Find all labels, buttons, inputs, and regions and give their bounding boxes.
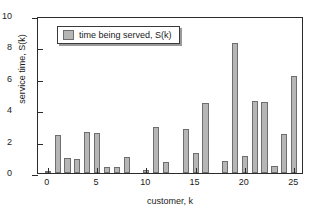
- bar: [222, 161, 228, 173]
- x-axis-label: customer, k: [37, 196, 303, 206]
- bar: [252, 101, 258, 173]
- x-tick-label: 15: [180, 178, 210, 187]
- bar: [55, 135, 61, 173]
- x-tick-label: 5: [81, 178, 111, 187]
- x-tick-label: 10: [130, 178, 160, 187]
- x-tick: [48, 168, 49, 173]
- x-tick: [196, 168, 197, 173]
- legend-swatch-icon: [63, 30, 74, 40]
- bar: [291, 76, 297, 173]
- bar: [153, 127, 159, 173]
- x-tick-label: 25: [278, 178, 308, 187]
- x-tick-label: 0: [32, 178, 62, 187]
- bar: [232, 43, 238, 173]
- y-tick: [32, 18, 38, 19]
- x-tick: [97, 168, 98, 173]
- x-tick: [294, 168, 295, 173]
- y-tick: [32, 175, 38, 176]
- y-tick-label: 2: [0, 138, 12, 147]
- x-tick: [245, 168, 246, 173]
- bar: [261, 102, 267, 173]
- bar: [183, 129, 189, 173]
- y-tick-label: 8: [0, 43, 12, 52]
- y-tick-label: 4: [0, 106, 12, 115]
- y-tick: [38, 112, 43, 113]
- bar: [84, 132, 90, 173]
- y-tick-label: 0: [0, 169, 12, 178]
- bar: [281, 134, 287, 173]
- y-tick: [38, 49, 43, 50]
- bar: [124, 157, 130, 173]
- bar: [104, 167, 110, 173]
- y-tick: [38, 144, 43, 145]
- y-axis-label: service time, S(k): [17, 0, 27, 139]
- bar: [271, 166, 277, 173]
- y-tick-label: 6: [0, 75, 12, 84]
- y-tick: [38, 81, 43, 82]
- bar: [74, 159, 80, 173]
- y-tick-label: 10: [0, 12, 12, 21]
- bar: [163, 162, 169, 173]
- x-tick: [146, 168, 147, 173]
- chart-figure: service time, S(k) customer, k 0246810 0…: [0, 0, 319, 217]
- x-tick-label: 20: [229, 178, 259, 187]
- bar: [64, 158, 70, 173]
- bar: [202, 103, 208, 173]
- bar: [114, 167, 120, 173]
- chart-legend: time being served, S(k): [57, 26, 180, 44]
- legend-label: time being served, S(k): [79, 30, 172, 40]
